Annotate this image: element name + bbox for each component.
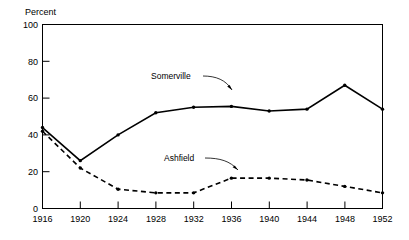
x-axis-ticks (43, 202, 383, 209)
y-tick-label-100: 100 (23, 20, 38, 30)
data-point (116, 187, 119, 190)
series-label-somerville: Somerville (151, 71, 191, 81)
y-tick-label-20: 20 (28, 167, 38, 177)
y-axis-tick-labels: 0 20 40 60 80 100 (23, 20, 38, 214)
data-point (116, 133, 119, 136)
annotation-ashfield: Ashfield (164, 153, 238, 170)
data-point (230, 176, 233, 179)
data-point (343, 84, 346, 87)
data-point (41, 126, 44, 129)
x-tick-label-1924: 1924 (108, 214, 128, 224)
data-point (305, 178, 308, 181)
chart-figure: Percent 0 20 40 60 80 100 (0, 0, 409, 240)
data-point (343, 185, 346, 188)
leader-arrowhead-somerville (227, 85, 232, 90)
data-point (192, 191, 195, 194)
data-point (381, 191, 384, 194)
series-layer (41, 84, 384, 195)
x-tick-label-1948: 1948 (335, 214, 355, 224)
data-point (381, 107, 384, 110)
data-point (41, 130, 44, 133)
data-point (79, 159, 82, 162)
data-point (192, 106, 195, 109)
y-tick-label-60: 60 (28, 93, 38, 103)
series-line-ashfield (43, 131, 383, 193)
data-point (230, 105, 233, 108)
series-ashfield (41, 130, 384, 195)
x-tick-label-1940: 1940 (259, 214, 279, 224)
y-tick-label-80: 80 (28, 57, 38, 67)
series-line-somerville (43, 85, 383, 160)
x-tick-label-1952: 1952 (372, 214, 392, 224)
x-tick-label-1920: 1920 (70, 214, 90, 224)
data-point (267, 109, 270, 112)
line-chart: Percent 0 20 40 60 80 100 (0, 0, 409, 240)
y-axis-ticks (43, 25, 50, 209)
y-tick-label-0: 0 (33, 204, 38, 214)
data-point (154, 111, 157, 114)
x-tick-label-1944: 1944 (297, 214, 317, 224)
x-tick-label-1936: 1936 (221, 214, 241, 224)
data-point (267, 176, 270, 179)
y-tick-label-40: 40 (28, 130, 38, 140)
y-axis-title: Percent (25, 7, 57, 17)
x-tick-label-1932: 1932 (184, 214, 204, 224)
leader-line-somerville (203, 76, 232, 90)
data-point (305, 107, 308, 110)
data-point (79, 166, 82, 169)
x-tick-label-1916: 1916 (32, 214, 52, 224)
x-axis-tick-labels: 1916 1920 1924 1928 1932 1936 1940 1944 … (32, 214, 392, 224)
plot-frame (43, 25, 383, 209)
x-tick-label-1928: 1928 (146, 214, 166, 224)
data-point (154, 191, 157, 194)
leader-line-ashfield (205, 158, 238, 170)
series-label-ashfield: Ashfield (164, 153, 195, 163)
series-somerville (41, 84, 384, 163)
annotation-somerville: Somerville (151, 71, 232, 90)
